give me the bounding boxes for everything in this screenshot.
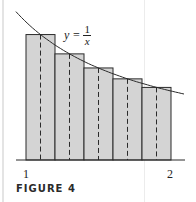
fraction-denominator: x <box>85 36 90 47</box>
fraction: 1 x <box>83 24 91 47</box>
rectangle <box>84 68 113 160</box>
x-tick-2: 2 <box>167 167 173 182</box>
figure-caption: FIGURE 4 <box>16 183 76 194</box>
x-tick-1: 1 <box>23 167 29 182</box>
function-label: y = 1 x <box>64 24 91 47</box>
eq-lhs: y = <box>64 28 80 43</box>
